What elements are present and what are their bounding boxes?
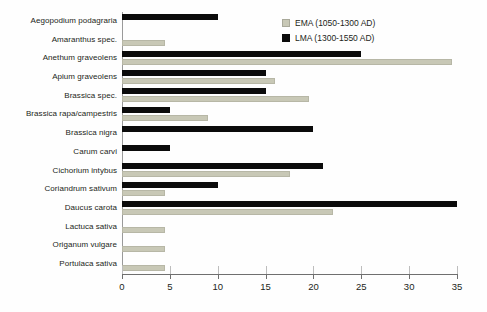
bar-ema [122,115,208,121]
gridline-stub [457,266,458,274]
bar-group [122,255,457,274]
bar-group [122,68,457,87]
plot-area [122,12,457,274]
category-label: Origanum vulgare [0,240,117,249]
x-axis-line [122,274,458,275]
bar-lma [122,88,266,94]
bar-ema [122,78,275,84]
x-axis-tick [457,274,458,279]
bar-lma [122,70,266,76]
bar-lma [122,182,218,188]
category-label: Amaranthus spec. [0,35,117,44]
category-label: Anethum graveolens [0,53,117,62]
bar-ema [122,246,165,252]
lma-swatch-icon [282,34,290,42]
category-label: Carum carvi [0,147,117,156]
gridline-stub [313,266,314,274]
x-axis-tick-label: 15 [260,281,271,292]
bar-group [122,124,457,143]
category-axis-labels: Aegopodium podagrariaAmaranthus spec.Ane… [0,12,117,274]
bar-group [122,237,457,256]
legend-item-ema: EMA (1050-1300 AD) [282,16,375,29]
bar-lma [122,145,170,151]
gridline-stub [122,266,123,274]
legend-label-lma: LMA (1300-1550 AD) [295,33,374,43]
bar-ema [122,171,290,177]
category-label: Portulaca sativa [0,259,117,268]
x-axis-tick-label: 0 [119,281,124,292]
gridline-stub [218,266,219,274]
bar-lma [122,126,313,132]
bar-lma [122,51,361,57]
bar-group [122,106,457,125]
bar-group [122,199,457,218]
bar-group [122,162,457,181]
bar-group [122,180,457,199]
gridline-stub [170,266,171,274]
x-axis-tick-label: 20 [308,281,319,292]
x-axis-tick [409,274,410,279]
bar-ema [122,190,165,196]
category-label: Apium graveolens [0,72,117,81]
category-label: Brassica nigra [0,128,117,137]
category-label: Coriandrum sativum [0,184,117,193]
x-axis-tick-label: 25 [356,281,367,292]
horizontal-bar-chart: Aegopodium podagrariaAmaranthus spec.Ane… [0,0,487,312]
category-label: Daucus carota [0,203,117,212]
bar-lma [122,107,170,113]
category-label: Brassica rapa/campestris [0,109,117,118]
legend-label-ema: EMA (1050-1300 AD) [295,18,375,28]
x-axis-tick-label: 10 [212,281,223,292]
category-label: Aegopodium podagraria [0,16,117,25]
bar-group [122,87,457,106]
bar-ema [122,227,165,233]
x-axis-tick-label: 35 [452,281,463,292]
bar-ema [122,96,309,102]
bar-lma [122,201,457,207]
bar-group [122,218,457,237]
bar-group [122,143,457,162]
x-axis-tick [266,274,267,279]
bar-ema [122,40,165,46]
x-axis-tick [122,274,123,279]
legend: EMA (1050-1300 AD) LMA (1300-1550 AD) [282,16,375,46]
x-axis-tick [218,274,219,279]
category-label: Cichorium intybus [0,166,117,175]
legend-item-lma: LMA (1300-1550 AD) [282,31,375,44]
bar-group [122,49,457,68]
category-label: Lactuca sativa [0,222,117,231]
bar-ema [122,59,452,65]
bar-ema [122,209,333,215]
x-axis-tick [313,274,314,279]
category-label: Brassica spec. [0,91,117,100]
bar-lma [122,14,218,20]
ema-swatch-icon [282,19,290,27]
bar-ema [122,265,165,271]
bar-lma [122,163,323,169]
gridline-stub [266,266,267,274]
x-axis-tick [170,274,171,279]
gridline-stub [361,266,362,274]
gridline-stub [409,266,410,274]
x-axis-tick-label: 5 [167,281,172,292]
x-axis-tick [361,274,362,279]
x-axis-tick-label: 30 [404,281,415,292]
